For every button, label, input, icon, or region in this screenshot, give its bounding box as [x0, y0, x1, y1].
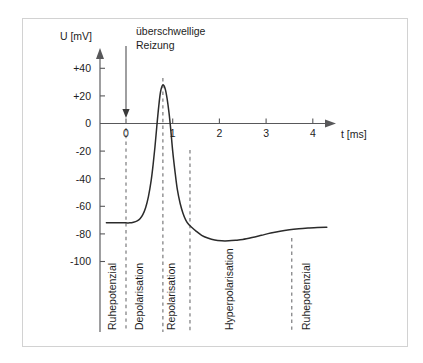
phase-label: Repolarisation [165, 263, 177, 330]
phase-label: Ruhepotenzial [106, 263, 118, 330]
y-tick-label: +20 [73, 90, 91, 102]
stimulus-annotation-line2: Reizung [136, 39, 175, 51]
stimulus-arrow-head [122, 109, 129, 118]
phase-labels-group: RuhepotenzialDepolarisationRepolarisatio… [106, 248, 313, 330]
x-axis-title: t [ms] [341, 128, 367, 140]
y-tick-label: -80 [76, 228, 91, 240]
stimulus-annotation-line1: überschwellige [136, 25, 206, 37]
y-axis-title: U [mV] [60, 30, 92, 42]
membrane-potential-curve [106, 85, 326, 241]
membrane-potential-path [106, 85, 326, 241]
action-potential-chart: überschwelligeReizung +40+200-20-40-60-8… [0, 0, 423, 363]
stimulus-arrow: überschwelligeReizung [122, 25, 205, 118]
phase-label: Hyperpolarisation [223, 248, 235, 330]
y-tick-label: +40 [73, 62, 91, 74]
figure-root: überschwelligeReizung +40+200-20-40-60-8… [0, 0, 423, 363]
x-tick-label: 1 [170, 127, 176, 139]
y-tick-label: -100 [70, 255, 91, 267]
x-tick-label: 2 [216, 127, 222, 139]
x-tick-label: 3 [263, 127, 269, 139]
tick-labels-group: +40+200-20-40-60-80-10001234 [70, 62, 316, 267]
phase-label: Ruhepotenzial [300, 263, 312, 330]
x-axis-arrowhead [325, 120, 336, 128]
y-axis-arrowhead [96, 48, 104, 59]
phase-divider-lines [126, 78, 292, 332]
x-tick-label: 4 [310, 127, 316, 139]
y-tick-label: 0 [85, 117, 91, 129]
y-tick-label: -20 [76, 145, 91, 157]
x-tick-label: 0 [123, 127, 129, 139]
y-tick-label: -40 [76, 173, 91, 185]
phase-label: Depolarisation [133, 263, 145, 330]
y-tick-label: -60 [76, 200, 91, 212]
